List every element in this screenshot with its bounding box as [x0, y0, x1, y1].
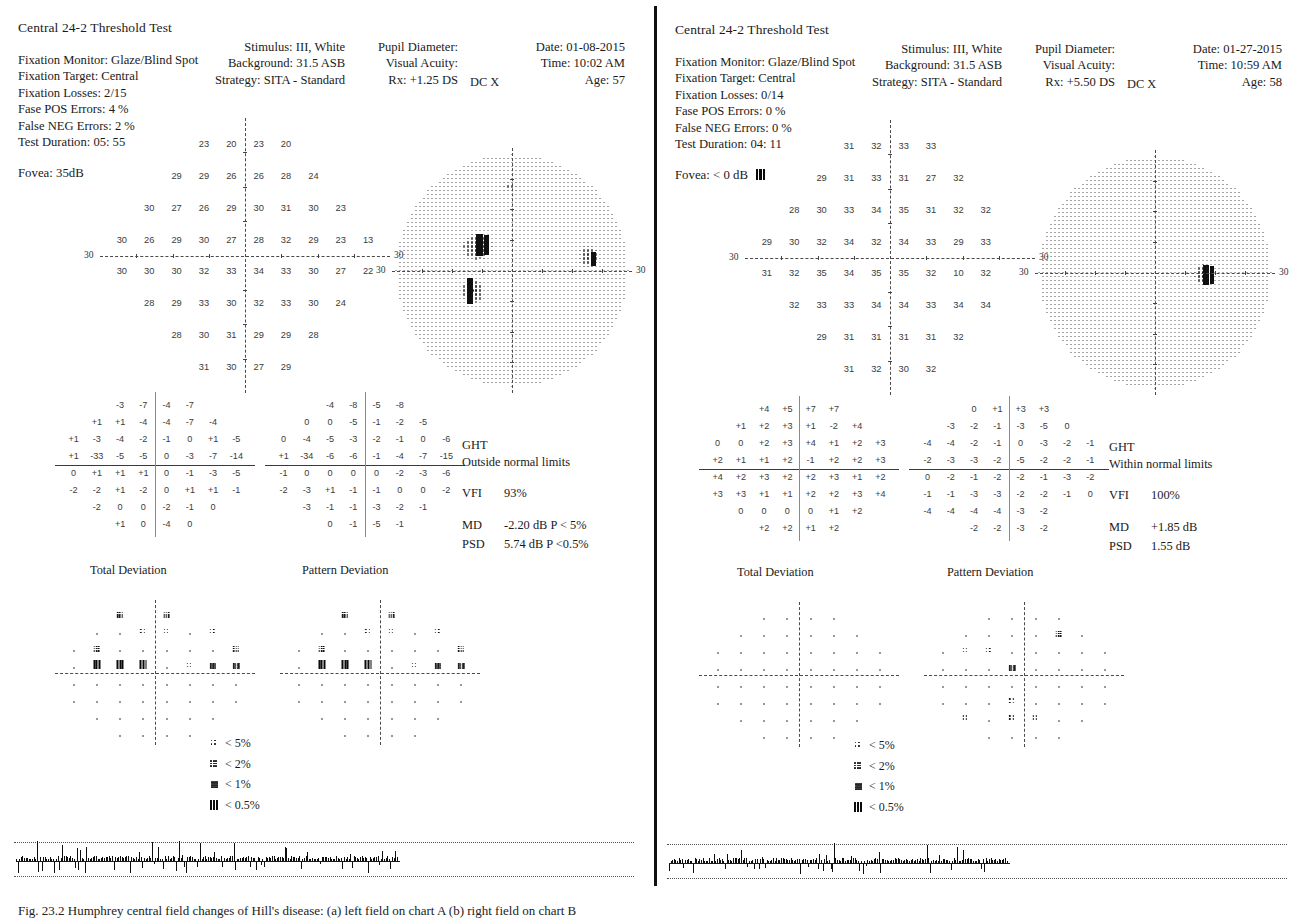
greyscale-dot [1146, 340, 1147, 341]
greyscale-dot [403, 282, 404, 283]
greyscale-dot [1042, 260, 1043, 261]
greyscale-dot [555, 186, 556, 187]
greyscale-dot [1094, 220, 1095, 221]
psd-row: PSD 1.55 dB [1109, 538, 1212, 555]
greyscale-dot [559, 210, 560, 211]
greyscale-dot [1206, 288, 1207, 289]
greyscale-dot [443, 294, 444, 295]
greyscale-dot [1150, 292, 1151, 293]
probability-cell [166, 638, 168, 656]
greyscale-dot [1194, 280, 1195, 281]
greyscale-dot [1130, 296, 1131, 297]
greyscale-dot [531, 310, 532, 311]
greyscale-dot [547, 362, 548, 363]
greyscale-dot [1122, 372, 1123, 373]
greyscale-dot [615, 246, 616, 247]
greyscale-dot [1210, 368, 1211, 369]
greyscale-dot [1162, 252, 1163, 253]
greyscale-defect-bar [591, 252, 596, 266]
greyscale-dot [471, 322, 472, 323]
probability-symbol-normal [414, 718, 416, 720]
greyscale-dot [503, 330, 504, 331]
greyscale-dot [599, 230, 600, 231]
greyscale-dot [1170, 336, 1171, 337]
greyscale-dot [1246, 328, 1247, 329]
greyscale-dot [1242, 228, 1243, 229]
greyscale-dot [543, 190, 544, 191]
greyscale-dot [555, 310, 556, 311]
greyscale-dot [1142, 356, 1143, 357]
greyscale-dot [1134, 184, 1135, 185]
greyscale-dot [523, 306, 524, 307]
greyscale-dot [567, 206, 568, 207]
greyscale-dot [1126, 340, 1127, 341]
greyscale-dot [475, 362, 476, 363]
grid-value: 33 [844, 300, 854, 310]
greyscale-dot [1234, 280, 1235, 281]
greyscale-dot [455, 226, 456, 227]
greyscale-dot [467, 330, 468, 331]
greyscale-dot [463, 218, 464, 219]
md-value: +1.85 dB [1151, 519, 1197, 536]
pattern-deviation-label: Pattern Deviation [302, 563, 388, 578]
greyscale-dot [447, 298, 448, 299]
greyscale-dot [571, 342, 572, 343]
greyscale-dot [431, 226, 432, 227]
greyscale-dot [523, 222, 524, 223]
axis-tick [209, 254, 210, 258]
greyscale-dot [559, 370, 560, 371]
greyscale-dot [1162, 276, 1163, 277]
greyscale-dot [563, 254, 564, 255]
grid-value: 31 [844, 173, 854, 183]
legend-label: < 1% [869, 778, 895, 795]
grid-value: -4 [947, 506, 955, 516]
greyscale-dot [455, 278, 456, 279]
grid-value: 31 [871, 332, 881, 342]
greyscale-dot [1182, 228, 1183, 229]
greyscale-dot [1178, 212, 1179, 213]
greyscale-dot [1090, 300, 1091, 301]
greyscale-dot [427, 258, 428, 259]
greyscale-dot [431, 318, 432, 319]
probability-symbol-normal [73, 650, 75, 652]
total-deviation-probability-plot [55, 600, 255, 745]
greyscale-dot [495, 202, 496, 203]
greyscale-dot [611, 214, 612, 215]
greyscale-dot [1186, 168, 1187, 169]
greyscale-dot [1070, 332, 1071, 333]
greyscale-dot [471, 354, 472, 355]
greyscale-dot [475, 202, 476, 203]
greyscale-dot [1110, 252, 1111, 253]
greyscale-dot [571, 334, 572, 335]
greyscale-dot [1202, 372, 1203, 373]
greyscale-dot [1046, 280, 1047, 281]
greyscale-dot [1062, 212, 1063, 213]
grid-value: -1 [947, 489, 955, 499]
greyscale-dot [507, 354, 508, 355]
greyscale-dot [1106, 168, 1107, 169]
greyscale-dot [1078, 196, 1079, 197]
greyscale-dot [531, 178, 532, 179]
greyscale-dot [555, 190, 556, 191]
greyscale-dot [495, 362, 496, 363]
greyscale-dot [1134, 164, 1135, 165]
greyscale-dot [607, 322, 608, 323]
greyscale-dot [455, 262, 456, 263]
greyscale-dot [519, 310, 520, 311]
greyscale-dot [1214, 336, 1215, 337]
greyscale-dot [507, 278, 508, 279]
probability-cell [391, 706, 393, 724]
greyscale-dot [483, 274, 484, 275]
greyscale-dot [1198, 204, 1199, 205]
greyscale-dot [427, 338, 428, 339]
greyscale-dot [1194, 308, 1195, 309]
greyscale-dot [543, 362, 544, 363]
axis-tick [354, 254, 355, 258]
greyscale-dot [503, 162, 504, 163]
greyscale-dot [483, 362, 484, 363]
probability-symbol-normal [1035, 669, 1037, 671]
greyscale-dot [1190, 264, 1191, 265]
greyscale-dot [575, 218, 576, 219]
greyscale-dot [1182, 204, 1183, 205]
greyscale-dot [459, 214, 460, 215]
